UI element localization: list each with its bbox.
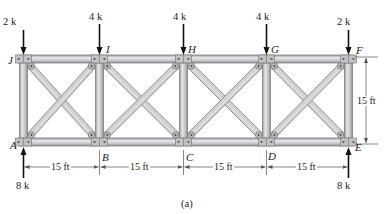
node-label-d: D	[268, 151, 276, 162]
truss-drawing	[0, 0, 388, 214]
truss-figure: 2 k 4 k 4 k 4 k 2 k J I H G F A B C D E …	[0, 0, 388, 214]
node-label-j: J	[8, 55, 13, 66]
height-dim: 15 ft	[356, 96, 377, 106]
node-label-a: A	[10, 140, 17, 151]
load-label-f: 2 k	[337, 17, 350, 28]
vertical-member	[20, 59, 28, 142]
reaction-label-e: 8 k	[337, 181, 350, 192]
load-label-g: 4 k	[256, 12, 269, 23]
span-dim-cd: 15 ft	[213, 162, 234, 172]
node-label-b: B	[102, 152, 109, 163]
load-label-h: 4 k	[173, 12, 186, 23]
load-arrows	[21, 24, 352, 55]
node-label-h: H	[188, 44, 196, 55]
reaction-label-a: 8 k	[16, 181, 29, 192]
node-label-e: E	[355, 142, 362, 153]
node-label-g: G	[271, 44, 279, 55]
vertical-member	[345, 59, 353, 142]
span-dim-bc: 15 ft	[129, 162, 150, 172]
node-label-i: I	[106, 44, 110, 55]
load-label-i: 4 k	[89, 12, 102, 23]
span-dim-de: 15 ft	[296, 162, 317, 172]
vertical-member	[180, 59, 188, 142]
node-label-c: C	[186, 152, 193, 163]
figure-caption: (a)	[181, 199, 193, 210]
vertical-member	[96, 59, 104, 142]
span-dim-ab: 15 ft	[50, 162, 71, 172]
load-label-j: 2 k	[3, 17, 16, 28]
node-label-f: F	[356, 45, 363, 56]
vertical-member	[263, 59, 271, 142]
